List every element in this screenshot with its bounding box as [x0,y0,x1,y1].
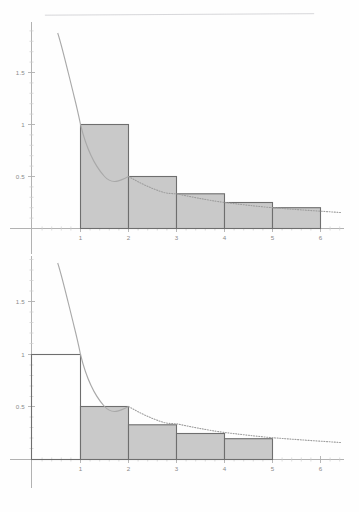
x-tick-label-upper-4: 4 [223,234,227,241]
bars-lower [32,355,273,460]
chart-upper-sum: 1.5 1 0.5 [0,0,359,256]
upper-sum-plot: 1.5 1 0.5 [0,0,359,256]
bar-lower-4 [225,439,273,460]
x-tick-label-upper-5: 5 [271,234,275,241]
x-tick-label-upper-2: 2 [127,234,131,241]
curve-one-over-x-lower [58,263,129,411]
bar-lower-2 [129,425,177,460]
y-tick-label-lower-1: 1 [21,351,25,358]
x-tick-label-lower-2: 2 [127,465,131,472]
chart-lower-sum: 1.5 1 0.5 [0,256,359,512]
y-tick-label-upper-1: 1 [21,121,25,128]
scanned-page: 1.5 1 0.5 [0,0,359,512]
bars-upper [81,125,321,229]
y-tick-label-upper-1_5: 1.5 [16,69,26,76]
x-tick-label-lower-3: 3 [175,465,179,472]
x-tick-label-upper-1: 1 [79,234,83,241]
x-tick-label-upper-6: 6 [319,234,323,241]
bar-lower-0-unfilled [32,355,81,460]
x-tick-label-lower-1: 1 [79,465,83,472]
y-tick-label-lower-1_5: 1.5 [16,298,26,305]
x-tick-label-upper-3: 3 [175,234,179,241]
y-tick-label-upper-0_5: 0.5 [16,173,26,180]
bar-upper-3 [225,203,273,229]
bar-lower-1 [81,407,129,460]
y-tick-label-lower-0_5: 0.5 [16,403,26,410]
x-tick-label-lower-6: 6 [319,465,323,472]
x-tick-label-lower-4: 4 [223,465,227,472]
bar-lower-3 [177,434,225,460]
bar-upper-1 [129,177,177,229]
lower-sum-plot: 1.5 1 0.5 [0,256,359,512]
x-tick-label-lower-5: 5 [271,465,275,472]
